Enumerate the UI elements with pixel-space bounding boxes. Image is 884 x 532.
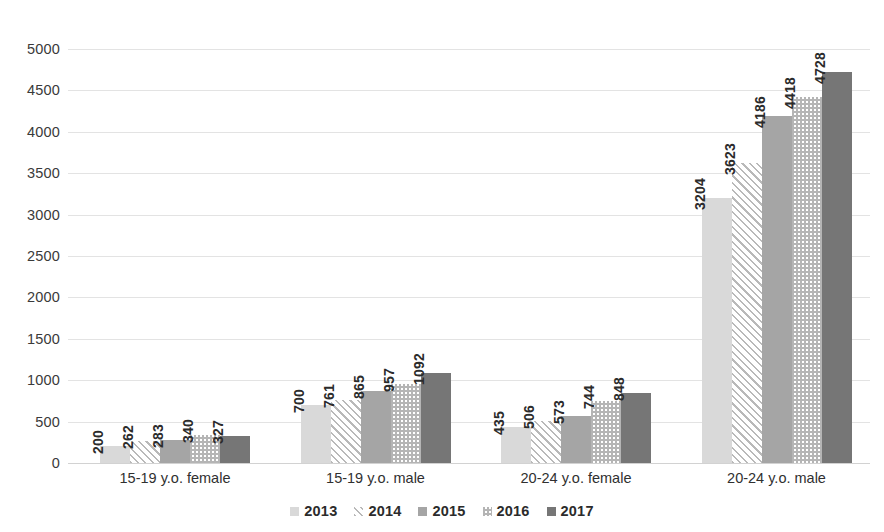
bar-group: 7007618659571092 [301,49,451,463]
bar-value-text: 327 [210,420,226,444]
bar[interactable] [621,393,651,463]
legend-label: 2015 [432,503,465,519]
bar-value-text: 4418 [781,77,797,109]
bar-value-label: 327 [219,420,235,444]
bar-value-label: 744 [590,385,606,409]
legend-item[interactable]: 2016 [483,503,530,519]
legend-swatch-icon [483,507,492,516]
bar[interactable] [361,391,391,463]
bar-value-label: 865 [360,375,376,399]
legend-item[interactable]: 2017 [547,503,594,519]
bar-value-text: 744 [581,385,597,409]
y-axis: 0500100015002000250030003500400045005000 [0,49,60,463]
bar[interactable] [331,400,361,463]
x-tick-label: 20-24 y.o. male [727,470,826,486]
bar-value-text: 1092 [410,353,426,385]
legend-label: 2013 [304,503,337,519]
y-tick-label: 4500 [27,82,60,98]
bar-value-text: 3204 [691,178,707,210]
x-axis-category-labels: 15-19 y.o. female15-19 y.o. male20-24 y.… [68,470,870,494]
legend-swatch-icon [547,507,556,516]
y-tick-label: 4000 [27,124,60,140]
bar[interactable] [702,198,732,463]
bar-value-text: 700 [290,389,306,413]
legend-label: 2014 [368,503,401,519]
y-tick-label: 500 [35,414,60,430]
bar-value-label: 4418 [791,77,807,109]
bar-value-text: 848 [611,377,627,401]
bar-value-label: 3623 [731,143,747,175]
bar[interactable] [822,72,852,463]
bar-value-text: 283 [150,424,166,448]
bar-value-label: 957 [390,368,406,392]
bar-value-label: 262 [129,425,145,449]
gridline [68,463,870,464]
bar-value-label: 1092 [420,353,436,385]
legend-item[interactable]: 2013 [290,503,337,519]
x-tick-label: 20-24 y.o. female [521,470,632,486]
legend-item[interactable]: 2015 [418,503,465,519]
bar-value-label: 200 [99,430,115,454]
legend-swatch-icon [418,507,427,516]
y-tick-label: 2500 [27,248,60,264]
grouped-bar-chart: 0500100015002000250030003500400045005000… [0,0,884,532]
bar-value-label: 3204 [701,178,717,210]
y-tick-label: 1000 [27,372,60,388]
bar-value-label: 700 [300,389,316,413]
bar[interactable] [301,405,331,463]
bar-value-label: 435 [500,411,516,435]
bar[interactable] [762,116,792,463]
chart-legend: 20132014201520162017 [0,503,884,519]
bar-value-label: 573 [560,400,576,424]
x-tick-label: 15-19 y.o. female [120,470,231,486]
bar-value-text: 4186 [751,96,767,128]
bar-value-label: 4186 [761,96,777,128]
bar[interactable] [792,97,822,463]
bar-value-text: 761 [320,384,336,408]
bar-group: 435506573744848 [501,49,651,463]
bar-value-label: 4728 [821,52,837,84]
bar-value-label: 506 [530,405,546,429]
legend-item[interactable]: 2014 [354,503,401,519]
bar-value-label: 761 [330,384,346,408]
y-tick-label: 5000 [27,41,60,57]
bar-value-text: 435 [491,411,507,435]
legend-swatch-icon [290,507,299,516]
bar[interactable] [591,401,621,463]
y-tick-label: 3000 [27,207,60,223]
bar-value-label: 283 [159,424,175,448]
bar-group: 200262283340327 [100,49,250,463]
bar-value-text: 262 [120,425,136,449]
y-tick-label: 2000 [27,289,60,305]
bar-group: 32043623418644184728 [702,49,852,463]
bar[interactable] [421,373,451,463]
plot-area: 2002622833403277007618659571092435506573… [68,49,870,463]
bar-value-label: 848 [620,377,636,401]
bar-value-text: 4728 [811,52,827,84]
x-tick-label: 15-19 y.o. male [326,470,425,486]
y-tick-label: 0 [52,455,60,471]
legend-swatch-icon [354,507,363,516]
legend-label: 2017 [561,503,594,519]
bar-value-label: 340 [189,419,205,443]
bar[interactable] [391,384,421,463]
y-tick-label: 3500 [27,165,60,181]
bar-value-text: 865 [350,375,366,399]
legend-label: 2016 [497,503,530,519]
bar-value-text: 573 [551,400,567,424]
bar-value-text: 200 [90,430,106,454]
bar-value-text: 3623 [721,143,737,175]
bar-value-text: 340 [180,419,196,443]
y-tick-label: 1500 [27,331,60,347]
bar[interactable] [732,163,762,463]
bar-value-text: 957 [380,368,396,392]
bar-value-text: 506 [521,405,537,429]
